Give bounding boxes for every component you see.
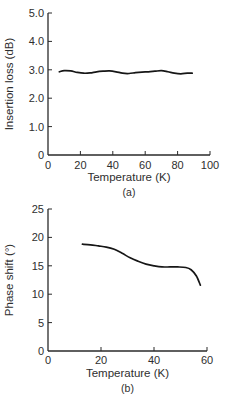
- x-tick-label: 40: [107, 159, 119, 171]
- x-tick-label: 20: [95, 354, 107, 366]
- x-tick-label: 0: [45, 354, 51, 366]
- insertion-loss-figure: 02040608010001.02.03.04.05.0Temperature …: [0, 0, 225, 201]
- y-axis-label: Phase shift (°): [3, 244, 15, 317]
- y-tick-label: 20: [32, 231, 44, 243]
- insertion-loss-chart: 02040608010001.02.03.04.05.0Temperature …: [0, 0, 225, 201]
- x-tick-label: 60: [201, 354, 213, 366]
- x-tick-label: 40: [148, 354, 160, 366]
- phase-shift-chart: 02040600510152025Temperature (K)Phase sh…: [0, 201, 225, 402]
- y-tick-label: 15: [32, 260, 44, 272]
- x-axis-label: Temperature (K): [86, 367, 169, 379]
- x-tick-label: 60: [139, 159, 151, 171]
- y-axis-label: Insertion loss (dB): [3, 37, 15, 130]
- y-tick-label: 5: [38, 317, 44, 329]
- figure-caption: (b): [121, 382, 134, 394]
- x-tick-label: 100: [201, 159, 219, 171]
- phase-shift-figure: 02040600510152025Temperature (K)Phase sh…: [0, 201, 225, 402]
- y-tick-label: 10: [32, 288, 44, 300]
- x-tick-label: 80: [171, 159, 183, 171]
- phase-shift-line: [82, 244, 200, 285]
- y-tick-label: 2.0: [29, 92, 44, 104]
- figure-caption: (a): [123, 186, 136, 198]
- figure-panel: 02040608010001.02.03.04.05.0Temperature …: [0, 0, 225, 402]
- y-tick-label: 25: [32, 203, 44, 215]
- y-tick-label: 3.0: [29, 64, 44, 76]
- x-tick-label: 0: [45, 159, 51, 171]
- y-tick-label: 0: [38, 345, 44, 357]
- y-tick-label: 4.0: [29, 35, 44, 47]
- y-tick-label: 1.0: [29, 121, 44, 133]
- x-axis-label: Temperature (K): [87, 171, 170, 183]
- insertion-loss-line: [59, 71, 192, 74]
- x-tick-label: 20: [74, 159, 86, 171]
- y-tick-label: 0: [38, 149, 44, 161]
- y-tick-label: 5.0: [29, 7, 44, 19]
